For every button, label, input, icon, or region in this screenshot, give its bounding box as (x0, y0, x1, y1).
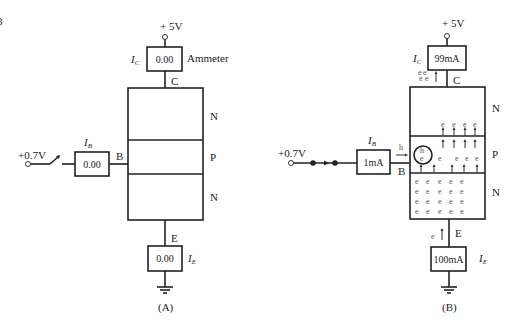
base-supply-b: +0.7V (278, 147, 306, 159)
svg-text:e: e (419, 74, 423, 83)
base-reading-b: 1mA (364, 157, 385, 168)
layer-base-b: P (492, 148, 498, 160)
emitter-terminal-a: E (171, 232, 178, 244)
ie-label-a: IE (187, 252, 197, 266)
layer-emitter-a: N (210, 191, 218, 203)
emitter-terminal-b: E (455, 227, 462, 239)
base-supply-terminal-a (26, 162, 31, 167)
svg-text:e: e (415, 207, 419, 216)
svg-text:e: e (438, 154, 442, 163)
svg-text:e: e (415, 187, 419, 196)
base-electrons: e e e e (438, 154, 479, 163)
transistor-diagram: 3 + 5V 0.00 IC Ammeter C N P N +0.7V 0.0… (0, 0, 512, 331)
svg-text:e: e (449, 177, 453, 186)
layer-collector-b: N (492, 102, 500, 114)
hole-label: h (399, 143, 403, 152)
collector-reading-a: 0.00 (156, 54, 174, 65)
svg-text:e: e (475, 154, 479, 163)
ic-label-b: IC (412, 52, 422, 66)
svg-text:e: e (426, 177, 430, 186)
supply-label-b: + 5V (442, 17, 464, 29)
ib-label-b: IB (367, 134, 377, 148)
base-reading-a: 0.00 (83, 159, 101, 170)
svg-text:e: e (449, 187, 453, 196)
svg-text:e: e (449, 197, 453, 206)
ammeter-label: Ammeter (187, 52, 229, 64)
base-terminal-b: B (398, 165, 405, 177)
ground-icon-b (441, 287, 457, 293)
collector-reading-b: 99mA (435, 53, 461, 64)
svg-text:e: e (415, 197, 419, 206)
svg-text:e: e (455, 154, 459, 163)
svg-text:e: e (438, 187, 442, 196)
svg-text:e: e (460, 207, 464, 216)
layer-base-a: P (210, 151, 216, 163)
ground-icon-a (157, 287, 173, 293)
emitter-electrons: eeeee eeeee eeeee eeeee (415, 177, 464, 216)
svg-text:e: e (460, 177, 464, 186)
svg-text:e: e (426, 197, 430, 206)
emitter-electron-label: e (431, 232, 435, 241)
svg-text:e: e (460, 187, 464, 196)
supply-terminal-b (445, 34, 450, 39)
svg-text:e: e (438, 197, 442, 206)
switch-open-a (50, 157, 58, 164)
circuit-a: + 5V 0.00 IC Ammeter C N P N +0.7V 0.00 … (18, 20, 229, 314)
supply-label-a: + 5V (160, 20, 182, 32)
circuit-b: + 5V 99mA IC C e e e e N P N e e e e (278, 17, 500, 314)
supply-terminal-a (163, 35, 168, 40)
base-supply-a: +0.7V (18, 149, 46, 161)
svg-text:e: e (449, 207, 453, 216)
svg-text:e: e (460, 197, 464, 206)
ic-label-a: IC (130, 53, 140, 67)
caption-b: (B) (442, 301, 457, 314)
upward-arrows-eb (420, 164, 479, 173)
switch-closed-b (310, 160, 338, 166)
svg-text:e: e (438, 177, 442, 186)
collector-terminal-a: C (171, 75, 178, 87)
collector-terminal-b: C (453, 74, 460, 86)
ie-label-b: IE (478, 252, 488, 266)
layer-collector-a: N (210, 110, 218, 122)
svg-text:e: e (426, 187, 430, 196)
svg-text:e: e (465, 154, 469, 163)
base-terminal-a: B (116, 150, 123, 162)
collector-injected-electrons: e e e e (441, 120, 477, 129)
ib-label-a: IB (83, 136, 93, 150)
recombination-electron: e (420, 154, 424, 163)
upward-arrows-cb (442, 127, 477, 148)
caption-a: (A) (158, 301, 174, 314)
emitter-reading-b: 100mA (434, 254, 465, 265)
transistor-body-a (128, 88, 203, 220)
svg-text:e: e (438, 207, 442, 216)
layer-emitter-b: N (492, 186, 500, 198)
emitter-reading-a: 0.00 (156, 253, 174, 264)
base-supply-terminal-b (289, 161, 294, 166)
svg-text:e: e (426, 207, 430, 216)
svg-text:e: e (425, 74, 429, 83)
figure-marker: 3 (0, 15, 3, 27)
svg-text:e: e (415, 177, 419, 186)
